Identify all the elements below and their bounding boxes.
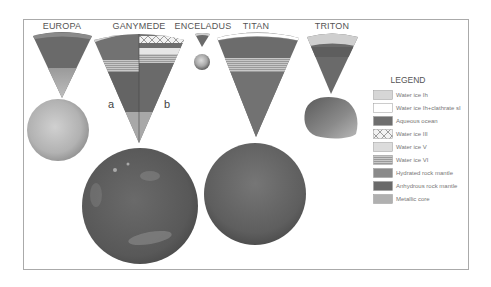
titan-sphere bbox=[204, 143, 306, 245]
label-enceladus: ENCELADUS bbox=[175, 21, 232, 31]
legend-swatch-anhydrous-rock bbox=[374, 182, 393, 191]
legend-label: Aqueous ocean bbox=[396, 118, 438, 124]
legend-swatch-metallic-core bbox=[374, 195, 393, 204]
legend-label: Metallic core bbox=[396, 196, 430, 202]
label-titan: TITAN bbox=[243, 21, 269, 31]
legend-swatch-ice-v bbox=[374, 143, 393, 152]
label-europa: EUROPA bbox=[43, 21, 82, 31]
legend-label: Anhydrous rock mantle bbox=[396, 183, 458, 189]
legend-label: Water ice Ih bbox=[396, 92, 428, 98]
legend-swatch-ice-vi bbox=[374, 156, 393, 165]
panel-label-b: b bbox=[164, 98, 170, 110]
interior-structure-figure: EUROPA GANYMEDE ENCELADUS TITAN TRITON a… bbox=[0, 0, 491, 287]
legend-label: Water ice Ih+clathrate sI bbox=[396, 105, 461, 111]
panel-label-a: a bbox=[108, 98, 115, 110]
label-ganymede: GANYMEDE bbox=[112, 21, 165, 31]
legend-swatch-ice-ih bbox=[374, 91, 393, 100]
legend-label: Hydrated rock mantle bbox=[396, 170, 454, 176]
enceladus-sphere bbox=[194, 54, 210, 70]
legend-label: Water ice VI bbox=[396, 157, 429, 163]
europa-sphere bbox=[27, 99, 89, 161]
legend-swatch-ice-iii bbox=[374, 130, 393, 139]
ganymede-sphere bbox=[82, 148, 198, 264]
legend-label: Water ice V bbox=[396, 144, 427, 150]
legend-label: Water ice III bbox=[396, 131, 428, 137]
legend-title: LEGEND bbox=[391, 75, 426, 85]
legend-swatch-aqueous-ocean bbox=[374, 117, 393, 126]
label-triton: TRITON bbox=[315, 21, 350, 31]
legend-swatch-ice-clathrate bbox=[374, 104, 393, 113]
legend-swatch-hydrated-rock bbox=[374, 169, 393, 178]
